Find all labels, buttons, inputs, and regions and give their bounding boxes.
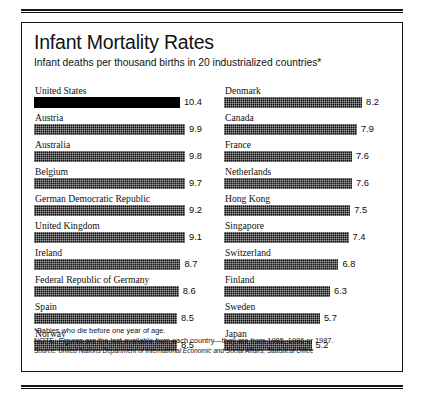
bar-line: 8.2	[224, 97, 392, 108]
bar-line: 6.3	[224, 286, 392, 297]
rule-thin-line	[21, 388, 403, 389]
bar-line: 7.6	[224, 151, 392, 162]
bar	[224, 97, 362, 108]
bar-row: Spain8.5	[34, 301, 202, 324]
page-title: Infant Mortality Rates	[34, 31, 321, 54]
bar	[34, 232, 185, 243]
bar-value: 7.5	[354, 205, 367, 216]
bar-row: France7.6	[224, 139, 392, 162]
bar-value: 10.4	[184, 97, 202, 108]
bar-row: Ireland8.7	[34, 247, 202, 270]
bar-label: Canada	[224, 112, 392, 123]
bar-value: 9.1	[189, 232, 202, 243]
left-column: United States10.4Austria9.9Australia9.8B…	[34, 85, 202, 355]
bar	[34, 205, 185, 216]
bar-label: Austria	[34, 112, 202, 123]
bar-value: 7.4	[353, 232, 366, 243]
bar-value: 9.7	[189, 178, 202, 189]
bar-row: Belgium9.7	[34, 166, 202, 189]
bar-value: 7.6	[356, 151, 369, 162]
bar	[224, 124, 357, 135]
bar-row: Finland6.3	[224, 274, 392, 297]
bar-label: Finland	[224, 274, 392, 285]
bar-label: Denmark	[224, 85, 392, 96]
bar-label: Belgium	[34, 166, 202, 177]
bar-row: Singapore7.4	[224, 220, 392, 243]
bar-value: 9.9	[189, 124, 202, 135]
bar	[224, 259, 338, 270]
bar-label: United States	[34, 85, 202, 96]
footnote-asterisk: *Babies who die before one year of age.	[34, 326, 390, 336]
bar-line: 10.4	[34, 97, 202, 108]
top-divider-rule	[21, 9, 403, 13]
chart-heading: Infant Mortality Rates Infant deaths per…	[34, 31, 321, 69]
bar-value: 8.7	[184, 259, 197, 270]
bar-value: 7.6	[356, 178, 369, 189]
bar-label: Singapore	[224, 220, 392, 231]
bar-line: 9.2	[34, 205, 202, 216]
bar-line: 8.7	[34, 259, 202, 270]
bar	[34, 313, 177, 324]
bar-label: Ireland	[34, 247, 202, 258]
bar-line: 7.5	[224, 205, 392, 216]
bar-label: United Kingdom	[34, 220, 202, 231]
bar-label: Federal Republic of Germany	[34, 274, 202, 285]
bar	[34, 124, 185, 135]
bar-line: 7.6	[224, 178, 392, 189]
bar	[224, 205, 350, 216]
bar-label: Hong Kong	[224, 193, 392, 204]
bar-row: United States10.4	[34, 85, 202, 108]
bar-value: 9.2	[189, 205, 202, 216]
bar-line: 8.5	[34, 313, 202, 324]
bar-line: 9.9	[34, 124, 202, 135]
bar-label: Spain	[34, 301, 202, 312]
footnotes: *Babies who die before one year of age. …	[34, 326, 390, 355]
bar-label: Netherlands	[224, 166, 392, 177]
bar-chart: United States10.4Austria9.9Australia9.8B…	[34, 85, 392, 355]
bar-value: 6.3	[334, 286, 347, 297]
bar-value: 7.9	[361, 124, 374, 135]
right-column: Denmark8.2Canada7.9France7.6Netherlands7…	[224, 85, 392, 355]
footnote-source: Source: United Nations Department of Int…	[34, 346, 390, 356]
bar	[34, 259, 180, 270]
bar-row: Netherlands7.6	[224, 166, 392, 189]
page-subtitle: Infant deaths per thousand births in 20 …	[34, 56, 321, 69]
bar-label: Sweden	[224, 301, 392, 312]
bar-row: Hong Kong7.5	[224, 193, 392, 216]
bar-row: United Kingdom9.1	[34, 220, 202, 243]
bar-line: 5.7	[224, 313, 392, 324]
bar-row: Denmark8.2	[224, 85, 392, 108]
bar-row: Canada7.9	[224, 112, 392, 135]
bar	[224, 286, 330, 297]
bar-line: 9.7	[34, 178, 202, 189]
bar-row: Switzerland6.8	[224, 247, 392, 270]
bar	[34, 178, 185, 189]
infographic-panel: Infant Mortality Rates Infant deaths per…	[21, 22, 403, 372]
bar-line: 9.8	[34, 151, 202, 162]
bottom-divider-rule	[21, 385, 403, 389]
bar	[224, 151, 352, 162]
bar-row: German Democratic Republic9.2	[34, 193, 202, 216]
bar-row: Sweden5.7	[224, 301, 392, 324]
bar-label: German Democratic Republic	[34, 193, 202, 204]
bar	[224, 178, 352, 189]
bar-line: 9.1	[34, 232, 202, 243]
bar-label: Australia	[34, 139, 202, 150]
bar-line: 6.8	[224, 259, 392, 270]
bar	[34, 97, 180, 108]
bar-row: Australia9.8	[34, 139, 202, 162]
bar	[224, 232, 349, 243]
bar-line: 7.9	[224, 124, 392, 135]
bar	[34, 286, 179, 297]
footnote-note: NOTE: Figures are the last available fro…	[34, 336, 390, 346]
bar-line: 7.4	[224, 232, 392, 243]
bar-value: 9.8	[189, 151, 202, 162]
bar	[224, 313, 320, 324]
bar-row: Austria9.9	[34, 112, 202, 135]
bar-value: 8.2	[366, 97, 379, 108]
bar-label: Switzerland	[224, 247, 392, 258]
bar-line: 8.6	[34, 286, 202, 297]
bar-label: France	[224, 139, 392, 150]
bar-value: 8.5	[181, 313, 194, 324]
bar-value: 6.8	[342, 259, 355, 270]
